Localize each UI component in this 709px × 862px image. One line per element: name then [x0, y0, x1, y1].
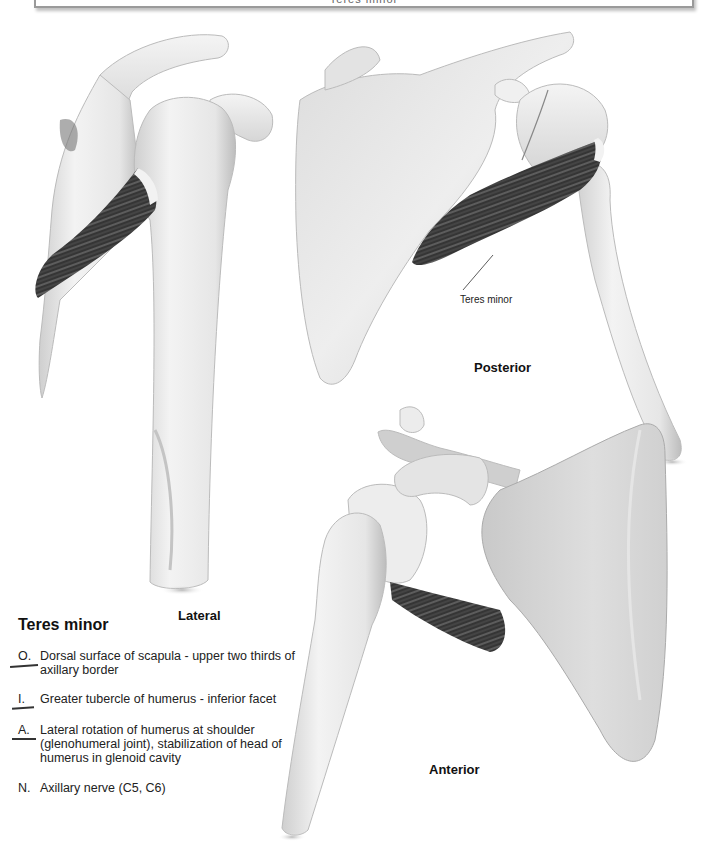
lateral-view-illustration — [35, 35, 272, 595]
action-underline — [12, 738, 36, 740]
action-letter: A. — [18, 723, 40, 737]
nerve-letter: N. — [18, 781, 40, 795]
action-entry: A. Lateral rotation of humerus at should… — [18, 723, 328, 767]
origin-text: Dorsal surface of scapula - upper two th… — [40, 649, 330, 677]
posterior-view-label: Posterior — [474, 360, 531, 375]
origin-entry: O. Dorsal surface of scapula - upper two… — [18, 649, 328, 679]
nerve-entry: N. Axillary nerve (C5, C6) — [18, 781, 328, 797]
origin-letter: O. — [18, 649, 40, 663]
lateral-view-label: Lateral — [178, 608, 221, 623]
muscle-title: Teres minor — [18, 616, 108, 634]
insertion-text: Greater tubercle of humerus - inferior f… — [40, 692, 330, 706]
teres-minor-callout: Teres minor — [460, 294, 512, 305]
insertion-entry: I. Greater tubercle of humerus - inferio… — [18, 692, 328, 708]
anterior-view-label: Anterior — [429, 762, 480, 777]
posterior-view-illustration — [296, 32, 688, 466]
action-text: Lateral rotation of humerus at shoulder … — [40, 723, 330, 765]
nerve-text: Axillary nerve (C5, C6) — [40, 781, 330, 795]
insertion-letter: I. — [18, 692, 40, 706]
